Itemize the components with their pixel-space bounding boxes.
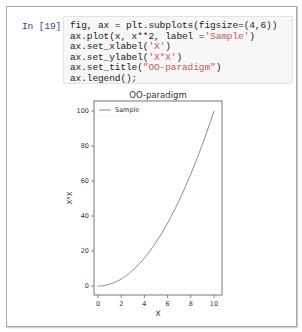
x-tick-label: 2: [119, 300, 123, 308]
legend-label: Sample: [115, 106, 139, 114]
x-tick-label: 10: [210, 300, 218, 308]
x-tick-label: 6: [166, 300, 170, 308]
y-axis-label: X*X: [66, 191, 74, 204]
y-tick-label: 100: [77, 107, 89, 115]
series-line: [98, 111, 214, 286]
x-axis-label: X: [155, 309, 160, 318]
chart-title: OO-paradigm: [129, 90, 186, 100]
y-tick-label: 40: [81, 212, 89, 220]
y-tick-label: 80: [81, 142, 89, 150]
x-tick-label: 4: [142, 300, 146, 308]
chart: OO-paradigm0246810020406080100XX*XSample: [0, 0, 302, 332]
y-tick-label: 20: [81, 247, 89, 255]
axes-frame: [94, 101, 222, 295]
y-tick-label: 60: [81, 177, 89, 185]
x-tick-label: 8: [189, 300, 193, 308]
x-tick-label: 0: [96, 300, 100, 308]
y-tick-label: 0: [85, 282, 89, 290]
